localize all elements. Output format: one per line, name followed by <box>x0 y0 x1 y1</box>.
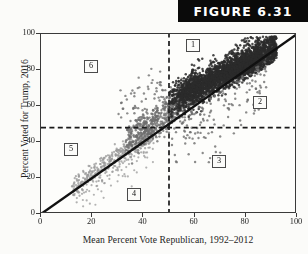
y-tick-mark <box>36 141 40 142</box>
y-tick-label: 100 <box>13 28 35 37</box>
x-tick-label: 20 <box>79 217 103 226</box>
figure-number-label: FIGURE 6.31 <box>193 4 292 19</box>
x-tick-label: 100 <box>284 217 308 226</box>
y-tick-label: 20 <box>13 172 35 181</box>
x-tick-label: 80 <box>233 217 257 226</box>
y-tick-mark <box>36 105 40 106</box>
scatter-plot-canvas <box>41 34 296 213</box>
y-tick-mark <box>36 69 40 70</box>
y-tick-label: 60 <box>13 100 35 109</box>
y-tick-mark <box>36 213 40 214</box>
x-tick-label: 60 <box>182 217 206 226</box>
y-tick-label: 0 <box>13 208 35 217</box>
region-label-3: 3 <box>212 155 226 168</box>
region-label-6: 6 <box>84 60 98 73</box>
x-axis-title: Mean Percent Vote Republican, 1992–2012 <box>40 234 296 245</box>
region-label-4: 4 <box>127 188 141 201</box>
y-tick-label: 40 <box>13 136 35 145</box>
region-label-2: 2 <box>253 96 267 109</box>
y-tick-mark <box>36 177 40 178</box>
x-tick-label: 40 <box>130 217 154 226</box>
region-label-1: 1 <box>186 39 200 52</box>
y-tick-label: 80 <box>13 64 35 73</box>
y-tick-mark <box>36 33 40 34</box>
x-tick-label: 0 <box>28 217 52 226</box>
y-axis-title: Percent Voted for Trump, 2016 <box>19 19 30 219</box>
figure-number-banner: FIGURE 6.31 <box>178 0 308 22</box>
region-label-5: 5 <box>64 143 78 156</box>
plot-area <box>40 33 296 213</box>
figure-container: FIGURE 6.31 Mean Percent Vote Republican… <box>0 0 308 254</box>
